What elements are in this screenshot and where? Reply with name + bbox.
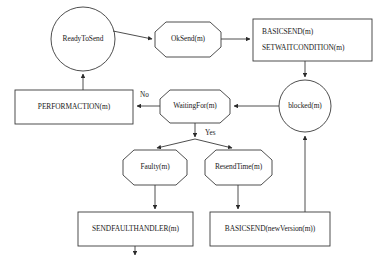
node-ok-send-shape (155, 22, 221, 57)
node-faulty-shape (123, 150, 187, 185)
node-basicsend-setwaitcondition-shape (253, 19, 372, 61)
flowchart-canvas: ReadyToSend OkSend(m) BASICSEND(m) SETWA… (0, 0, 382, 271)
edge-label-yes: Yes (205, 130, 215, 137)
node-basicsend-newversion-shape (210, 212, 330, 246)
edge-label-no: No (140, 92, 149, 99)
node-performaction-shape (15, 90, 133, 124)
node-waiting-for-shape (160, 90, 230, 123)
node-blocked-shape (279, 80, 331, 132)
node-resend-time-shape (205, 150, 272, 185)
edge-ready-to-send-to-ok-send (113, 31, 152, 39)
edge-yes-split-to-resend-time (195, 139, 232, 148)
node-ready-to-send-shape (51, 7, 115, 71)
node-sendfaulthandler-shape (78, 212, 193, 246)
edge-yes-split-to-faulty (157, 139, 195, 148)
flowchart-graphics (0, 0, 382, 271)
